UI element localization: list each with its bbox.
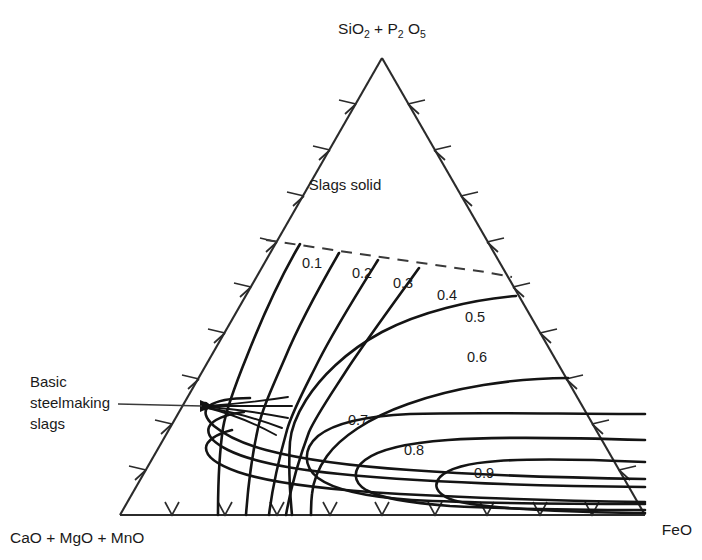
tick-bottom-4: [323, 502, 337, 515]
contour-label-0.1: 0.1: [302, 255, 322, 271]
annotation-line-2: steelmaking: [30, 394, 110, 411]
contour-label-0.6: 0.6: [467, 349, 487, 365]
contour-line-0.1: [218, 244, 300, 515]
vertex-top-sio: SiO: [338, 20, 364, 37]
vertex-label-bottom-left: CaO + MgO + MnO: [10, 529, 144, 546]
tick-left-5: [234, 283, 251, 297]
ternary-diagram-figure: Slags solid 0.1 0.2 0.3 0.4 0.5 0.6 0.7 …: [0, 0, 702, 560]
tick-left-3: [287, 192, 304, 206]
contour-label-0.9: 0.9: [474, 465, 494, 481]
tick-right-3: [461, 192, 478, 206]
vertex-label-top: SiO2 + P2 O5: [338, 20, 426, 40]
vertex-top-o: O: [404, 20, 420, 37]
annotation-line-3: slags: [30, 415, 65, 432]
vertex-top-sub5: 5: [420, 28, 426, 40]
ticks-left-edge: [129, 100, 356, 480]
tick-left-2: [313, 146, 330, 160]
tick-bottom-1: [165, 502, 179, 515]
svg-text:SiO2 + P2 O5: SiO2 + P2 O5: [338, 20, 426, 40]
tick-right-1: [408, 100, 425, 114]
annotation-line-1: Basic: [30, 373, 67, 390]
tick-right-6: [540, 329, 557, 343]
contour-label-0.2: 0.2: [352, 265, 372, 281]
contour-label-0.3: 0.3: [393, 275, 413, 291]
contour-label-0.4: 0.4: [437, 287, 457, 303]
contour-label-0.8: 0.8: [404, 442, 424, 458]
tick-left-7: [182, 375, 199, 389]
contour-label-0.7: 0.7: [348, 412, 368, 428]
tick-left-1: [339, 100, 356, 114]
contour-line-0.2: [246, 253, 339, 515]
contour-line-0.6: [311, 378, 568, 515]
contour-lines: [206, 244, 645, 515]
vertex-label-bottom-right: FeO: [662, 521, 692, 538]
tick-left-9: [129, 466, 146, 480]
tick-right-4: [487, 238, 504, 252]
tick-left-6: [208, 329, 225, 343]
annotation-leader-line: [118, 404, 202, 406]
region-label-slags-solid: Slags solid: [309, 176, 382, 193]
axis-lines: [120, 58, 645, 515]
diagram-canvas: Slags solid 0.1 0.2 0.3 0.4 0.5 0.6 0.7 …: [0, 0, 702, 560]
vertex-top-plus: + P: [370, 20, 398, 37]
tick-bottom-3: [270, 502, 284, 515]
tick-left-8: [155, 420, 172, 434]
annotation-basic-steelmaking-slags: Basic steelmaking slags: [30, 373, 110, 432]
tick-right-2: [434, 146, 451, 160]
tick-bottom-2: [218, 502, 232, 515]
tick-right-8: [592, 420, 609, 434]
contour-label-0.5: 0.5: [465, 309, 485, 325]
contour-convergence-fan: [208, 397, 292, 435]
tick-bottom-5: [375, 502, 389, 515]
tight-loop-2: [208, 412, 645, 487]
